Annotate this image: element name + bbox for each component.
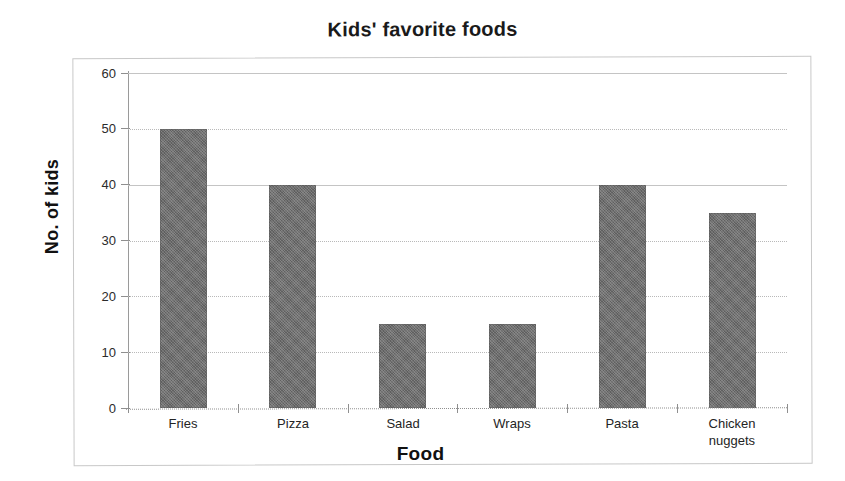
gridline-40 (128, 185, 787, 186)
x-label-line1: Pizza (238, 415, 348, 432)
x-label-fries: Fries (128, 415, 238, 432)
y-tick-label: 20 (76, 289, 116, 304)
x-tick-mark (567, 404, 568, 413)
y-tick-label: 10 (76, 345, 116, 360)
plot-area (128, 73, 787, 408)
x-tick-mark (348, 404, 349, 413)
bar-chicken-nuggets (709, 213, 756, 408)
bar-salad (379, 324, 426, 408)
y-tick-label: 40 (76, 177, 116, 192)
x-label-line1: Pasta (567, 415, 677, 432)
x-label-line1: Chicken (677, 415, 787, 432)
gridline-30 (128, 241, 787, 242)
bar-chart-figure: Kids' favorite foods No. of kids 60 50 4… (0, 0, 845, 481)
bar-pasta (599, 185, 646, 408)
bar-fries (160, 129, 207, 408)
x-tick-mark (457, 404, 458, 413)
y-axis-tick-labels: 60 50 40 30 20 10 0 (72, 0, 116, 481)
y-axis-title: No. of kids (42, 122, 63, 292)
gridline-10 (128, 352, 787, 353)
x-tick-mark (677, 404, 678, 413)
x-label-salad: Salad (348, 415, 458, 432)
bar-wraps (489, 324, 536, 408)
x-tick-mark (128, 404, 129, 413)
x-label-pizza: Pizza (238, 415, 348, 432)
y-tick-label: 60 (76, 66, 116, 81)
x-label-wraps: Wraps (457, 415, 567, 432)
x-label-line1: Wraps (457, 415, 567, 432)
x-tick-mark (238, 404, 239, 413)
x-label-line1: Salad (348, 415, 458, 432)
y-tick-label: 30 (76, 233, 116, 248)
x-label-line1: Fries (128, 415, 238, 432)
x-label-pasta: Pasta (567, 415, 677, 432)
gridline-50 (128, 129, 787, 130)
x-tick-mark (787, 404, 788, 413)
gridline-60 (128, 73, 787, 74)
y-tick-label: 50 (76, 121, 116, 136)
bar-pizza (269, 185, 316, 408)
y-tick-label: 0 (76, 401, 116, 416)
gridline-20 (128, 296, 787, 297)
x-axis-title: Food (128, 443, 713, 465)
chart-title: Kids' favorite foods (0, 16, 845, 43)
